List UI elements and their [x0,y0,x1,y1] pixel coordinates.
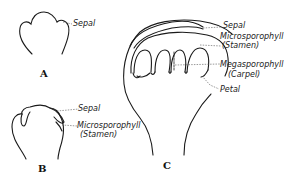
figure-c-label-sepal: Sepal [223,21,245,30]
figure-c-label-megasporophyll: Megasporophyll [220,60,283,69]
figure-c-label-petal: Petal [220,85,240,94]
figure-c-leaders [175,27,222,89]
figure-b-label-stamen: (Stamen) [80,130,117,139]
figure-a-letter: A [40,68,48,79]
figure-c-label-stamen: (Stamen) [222,41,259,50]
figure-c-label-carpel: (Carpel) [228,70,260,79]
figure-a-bud [20,12,69,54]
figure-c-label-microsporophyll: Microsporophyll [220,32,283,41]
flower-development-diagram: Sepal A Sepal Microsporophyll (Stamen) B… [0,0,284,182]
figure-a-label-sepal: Sepal [73,19,95,28]
figure-b-label-sepal: Sepal [78,104,100,113]
figure-b-bud [12,105,64,159]
figure-c-letter: C [163,160,171,171]
figure-b-letter: B [38,163,46,174]
figure-c-flower [124,20,232,155]
figure-b-label-microsporophyll: Microsporophyll [77,121,140,130]
